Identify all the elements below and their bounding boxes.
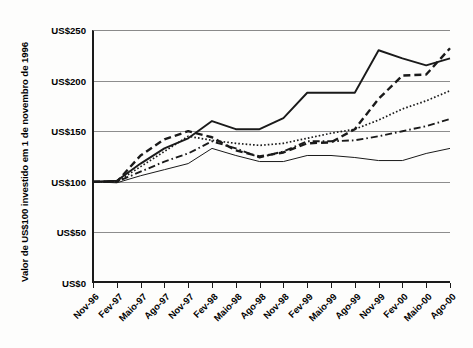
x-axis-tick-label-text: Nov-98 xyxy=(261,291,291,321)
y-axis-tick-labels: US$0US$50US$100US$150US$200US$250 xyxy=(22,0,86,348)
x-axis-tick-mark xyxy=(450,283,451,288)
x-axis-tick-label: Ago-99 xyxy=(332,291,362,321)
x-axis-tick-mark xyxy=(93,283,94,288)
y-axis-tick-label: US$50 xyxy=(22,227,86,238)
x-axis-tick-label-text: Nov-97 xyxy=(166,291,196,321)
x-axis-tick-mark xyxy=(141,283,142,288)
x-axis-tick-mark xyxy=(164,283,165,288)
series-line-serie-3 xyxy=(93,91,450,182)
x-axis-tick-mark xyxy=(331,283,332,288)
x-axis-tick-label-text: Ago-00 xyxy=(428,291,458,321)
y-axis-tick-label: US$150 xyxy=(22,126,86,137)
series-lines xyxy=(92,30,450,283)
x-axis-tick-label-text: Ago-99 xyxy=(332,291,362,321)
y-axis-tick-label: US$200 xyxy=(22,75,86,86)
x-axis-tick-label-text: Ago-98 xyxy=(237,291,267,321)
x-axis-tick-mark xyxy=(117,283,118,288)
x-axis-tick-mark xyxy=(402,283,403,288)
y-axis-tick-label: US$0 xyxy=(22,278,86,289)
x-axis-tick-mark xyxy=(426,283,427,288)
x-axis-tick-mark xyxy=(355,283,356,288)
chart-page: Valor de US$100 investido em 1 de novemb… xyxy=(0,0,473,348)
x-axis-tick-label-text: Nov-99 xyxy=(356,291,386,321)
x-axis-tick-mark xyxy=(212,283,213,288)
x-axis-tick-label: Ago-98 xyxy=(237,291,267,321)
x-axis-tick-mark xyxy=(260,283,261,288)
x-axis-tick-mark xyxy=(379,283,380,288)
x-axis-tick-mark xyxy=(188,283,189,288)
x-axis-tick-label: Ago-00 xyxy=(428,291,458,321)
x-axis-tick-label: Nov-97 xyxy=(166,291,196,321)
x-axis-tick-label: Nov-98 xyxy=(261,291,291,321)
x-axis-tick-mark xyxy=(283,283,284,288)
plot-area xyxy=(92,30,450,283)
y-axis-tick-label: US$250 xyxy=(22,25,86,36)
x-axis-tick-label: Nov-99 xyxy=(356,291,386,321)
x-axis-tick-mark xyxy=(307,283,308,288)
y-axis-tick-label: US$100 xyxy=(22,176,86,187)
x-axis-tick-mark xyxy=(236,283,237,288)
